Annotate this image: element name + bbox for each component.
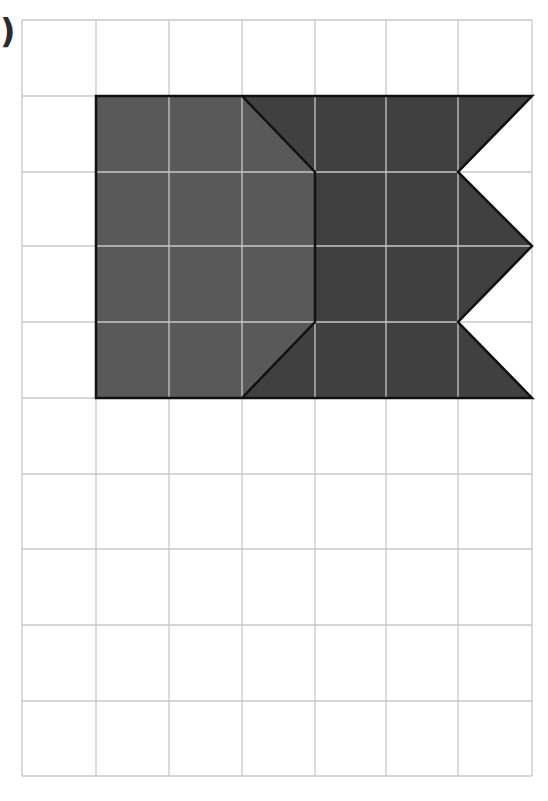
- light-region: [96, 96, 315, 398]
- grid-diagram: [0, 0, 548, 801]
